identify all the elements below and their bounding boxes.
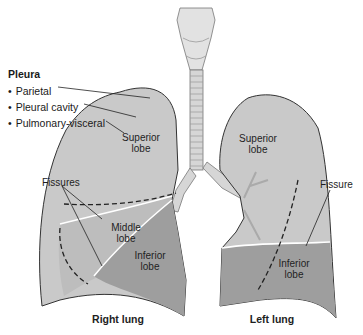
- label-fissures: Fissures: [42, 177, 80, 188]
- label-line: Superior: [122, 132, 160, 143]
- legend-item-parietal: Parietal: [8, 83, 105, 99]
- label-right-superior-lobe: Superior lobe: [122, 132, 160, 154]
- label-right-inferior-lobe: Inferior lobe: [134, 250, 165, 272]
- label-line: lobe: [111, 233, 140, 244]
- label-line: Inferior: [278, 258, 309, 269]
- label-line: lobe: [134, 261, 165, 272]
- label-line: Middle: [111, 222, 140, 233]
- label-left-superior-lobe: Superior lobe: [239, 133, 277, 155]
- label-line: lobe: [239, 144, 277, 155]
- label-line: lobe: [122, 143, 160, 154]
- pleura-legend: Pleura Parietal Pleural cavity Pulmonary…: [8, 68, 105, 131]
- left-lung: [220, 95, 336, 318]
- lungs-diagram: [0, 0, 363, 335]
- legend-item-pleural-cavity: Pleural cavity: [8, 99, 105, 115]
- label-right-middle-lobe: Middle lobe: [111, 222, 140, 244]
- label-line: Inferior: [134, 250, 165, 261]
- label-fissure: Fissure: [320, 179, 353, 190]
- label-line: lobe: [278, 269, 309, 280]
- label-right-lung: Right lung: [92, 314, 144, 325]
- label-left-inferior-lobe: Inferior lobe: [278, 258, 309, 280]
- pleura-title: Pleura: [8, 68, 105, 80]
- legend-item-pulmonary-visceral: Pulmonary-visceral: [8, 115, 105, 131]
- larynx: [177, 8, 215, 70]
- label-left-lung: Left lung: [250, 314, 294, 325]
- label-line: Superior: [239, 133, 277, 144]
